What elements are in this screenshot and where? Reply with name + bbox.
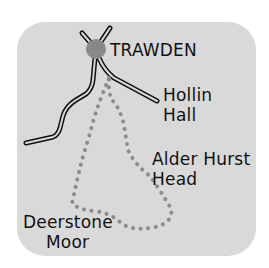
label-deerstone: Deerstone <box>23 213 113 231</box>
label-alder-hurst: Alder Hurst <box>152 150 250 168</box>
road-west-icon <box>26 58 95 143</box>
village-marker-icon <box>86 39 106 59</box>
label-trawden: TRAWDEN <box>110 41 197 59</box>
label-hollin: Hollin <box>163 86 212 104</box>
label-head: Head <box>152 170 197 188</box>
label-hall: Hall <box>163 106 196 124</box>
label-moor: Moor <box>46 233 89 251</box>
